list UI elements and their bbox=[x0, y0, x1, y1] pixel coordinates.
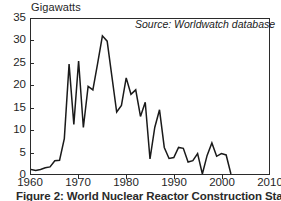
y-tick-label-15: 15 bbox=[0, 101, 26, 113]
y-tick-mark-10 bbox=[30, 130, 34, 131]
y-tick-label-35: 35 bbox=[0, 11, 26, 23]
plot-area bbox=[30, 18, 270, 175]
x-tick-label-1960: 1960 bbox=[10, 176, 50, 188]
y-tick-mark-25 bbox=[30, 63, 34, 64]
x-tick-mark-1980 bbox=[126, 175, 127, 179]
y-tick-label-25: 25 bbox=[0, 56, 26, 68]
y-tick-mark-30 bbox=[30, 40, 34, 41]
x-tick-label-2010: 2010 bbox=[250, 176, 281, 188]
data-line-container bbox=[31, 19, 269, 174]
x-tick-mark-1990 bbox=[174, 175, 175, 179]
y-tick-label-10: 10 bbox=[0, 123, 26, 135]
figure-caption: Figure 2: World Nuclear Reactor Construc… bbox=[16, 190, 281, 201]
x-tick-mark-2000 bbox=[222, 175, 223, 179]
y-tick-mark-20 bbox=[30, 85, 34, 86]
figure-container: Gigawatts Source: Worldwatch database 05… bbox=[0, 0, 281, 201]
source-annotation: Source: Worldwatch database bbox=[135, 18, 275, 30]
line-series-nuclear-construction-starts bbox=[31, 19, 269, 174]
y-axis-title: Gigawatts bbox=[31, 1, 81, 13]
y-tick-mark-15 bbox=[30, 108, 34, 109]
x-tick-mark-1970 bbox=[78, 175, 79, 179]
y-tick-mark-5 bbox=[30, 153, 34, 154]
y-tick-label-20: 20 bbox=[0, 78, 26, 90]
y-tick-label-30: 30 bbox=[0, 33, 26, 45]
y-tick-label-5: 5 bbox=[0, 146, 26, 158]
